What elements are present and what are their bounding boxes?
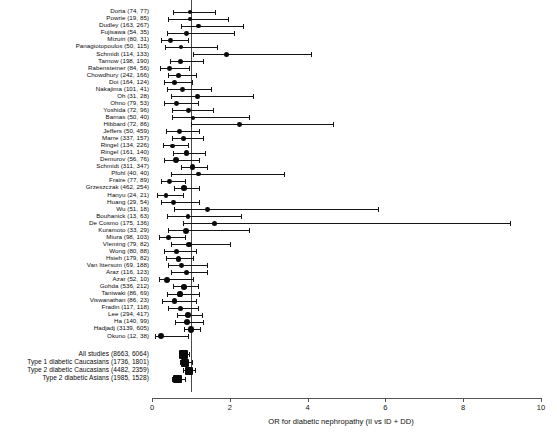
x-axis-tick [541,398,542,402]
confidence-interval-cap-lower [164,101,165,106]
study-label: Panagiotopoulos (50, 115) [76,43,149,49]
confidence-interval-cap-upper [207,165,208,170]
study-effect-marker [176,73,181,78]
study-label: Doi (164, 124) [109,79,149,85]
study-effect-marker [168,38,173,43]
confidence-interval-cap-lower [174,186,175,191]
confidence-interval-cap-upper [311,52,312,57]
confidence-interval-cap-lower [168,228,169,233]
confidence-interval-line [168,230,249,231]
x-axis-line [152,398,541,399]
study-effect-marker [184,270,189,275]
x-axis-title-text: OR for diabetic nephropathy (II vs ID + … [268,417,413,426]
confidence-interval-cap-upper [205,151,206,156]
confidence-interval-cap-lower [168,73,169,78]
confidence-interval-cap-upper [510,221,511,226]
confidence-interval-cap-lower [171,172,172,177]
study-label: Grzeszczak (462, 254) [86,184,149,190]
confidence-interval-cap-lower [164,80,165,85]
study-effect-marker [170,144,175,149]
study-effect-marker [224,52,229,57]
reference-line [191,0,192,392]
study-effect-marker [181,136,186,141]
study-effect-marker [172,80,177,85]
study-effect-marker [185,312,191,318]
study-effect-marker [167,66,172,71]
confidence-interval-cap-lower [171,94,172,99]
confidence-interval-cap-lower [164,158,165,163]
study-label: Okuno (12, 38) [107,333,149,339]
confidence-interval-line [164,251,195,252]
confidence-interval-cap-upper [203,320,204,325]
study-effect-marker [191,116,195,120]
confidence-interval-cap-upper [213,108,214,113]
study-effect-marker [171,200,176,205]
confidence-interval-line [171,272,208,273]
confidence-interval-cap-upper [253,94,254,99]
confidence-interval-line [160,68,189,69]
confidence-interval-cap-upper [192,80,193,85]
confidence-interval-cap-upper [207,270,208,275]
confidence-interval-line [159,237,185,238]
confidence-interval-cap-upper [230,242,231,247]
confidence-interval-cap-upper [193,277,194,282]
confidence-interval-cap-upper [249,115,250,120]
study-effect-marker [176,256,182,262]
confidence-interval-cap-upper [199,292,200,297]
confidence-interval-cap-upper [215,10,216,15]
confidence-interval-cap-lower [163,143,164,148]
confidence-interval-cap-upper [243,24,244,29]
study-effect-marker [183,228,189,234]
study-effect-marker [205,207,210,212]
confidence-interval-cap-upper [183,193,184,198]
confidence-interval-line [183,223,510,224]
confidence-interval-cap-lower [183,368,184,373]
study-label: Tarnow (198, 190) [98,58,149,64]
x-axis-title: OR for diabetic nephropathy (II vs ID + … [0,417,557,426]
confidence-interval-line [173,12,215,13]
confidence-interval-line [170,61,203,62]
confidence-interval-cap-lower [181,24,182,29]
confidence-interval-cap-upper [284,172,285,177]
confidence-interval-line [165,47,218,48]
study-label: Schmidt (114, 133) [96,51,149,57]
study-effect-marker [178,59,183,64]
confidence-interval-cap-lower [160,66,161,71]
confidence-interval-cap-upper [199,186,200,191]
study-effect-marker [181,185,187,191]
study-effect-marker [158,333,164,339]
confidence-interval-cap-upper [189,66,190,71]
study-effect-marker [173,157,179,163]
confidence-interval-cap-lower [171,270,172,275]
study-effect-marker [177,291,182,296]
confidence-interval-line [168,19,228,20]
confidence-interval-line [157,195,183,196]
confidence-interval-line [171,244,229,245]
forest-plot-panel [152,0,544,400]
confidence-interval-cap-lower [175,320,176,325]
study-effect-marker [184,319,190,325]
confidence-interval-cap-upper [198,284,199,289]
confidence-interval-cap-upper [196,299,197,304]
confidence-interval-cap-lower [173,10,174,15]
study-effect-marker [195,94,199,98]
confidence-interval-cap-lower [165,45,166,50]
study-effect-marker [166,235,171,240]
confidence-interval-line [167,216,242,217]
confidence-interval-cap-upper [198,306,199,311]
study-effect-marker [174,249,179,254]
study-effect-marker [184,31,189,36]
confidence-interval-cap-upper [199,158,200,163]
confidence-interval-cap-upper [199,200,200,205]
confidence-interval-line [168,308,198,309]
study-label: Chowdhury (242, 166) [87,72,149,78]
study-label-column: Dorta (74, 77)Powrie (19, 85)Dudley (163… [0,0,149,400]
confidence-interval-line [161,181,185,182]
study-effect-marker [196,172,200,176]
x-axis-tick-label: 8 [461,403,465,412]
x-axis-tick-label: 2 [228,403,232,412]
confidence-interval-cap-upper [196,249,197,254]
confidence-interval-line [163,145,188,146]
summary-effect-marker [173,375,181,383]
study-label: Bouhanick (13, 63) [96,213,149,219]
